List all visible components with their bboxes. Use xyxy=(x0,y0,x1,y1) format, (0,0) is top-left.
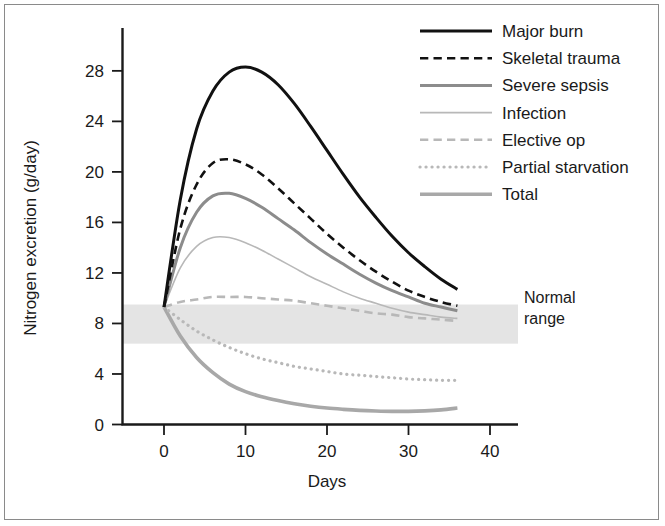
normal-range-label-line1: Normal xyxy=(524,289,576,306)
legend-item-label: Partial starvation xyxy=(502,158,629,177)
series-line-severe-sepsis xyxy=(164,193,457,311)
series-line-major-burn xyxy=(164,67,457,307)
normal-range-label-line2: range xyxy=(524,310,565,327)
x-tick-label: 40 xyxy=(481,442,500,461)
x-tick-label: 0 xyxy=(159,442,168,461)
x-tick-label: 20 xyxy=(318,442,337,461)
line-chart: 010203040 0481216202428 Major burnSkelet… xyxy=(0,0,665,526)
y-axis-label: Nitrogen excretion (g/day) xyxy=(21,140,40,336)
y-tick-label: 24 xyxy=(85,112,104,131)
legend-item-label: Total xyxy=(502,185,538,204)
legend-item-label: Skeletal trauma xyxy=(502,49,621,68)
legend-item-label: Elective op xyxy=(502,131,585,150)
x-tick-label: 10 xyxy=(236,442,255,461)
chart-legend: Major burnSkeletal traumaSevere sepsisIn… xyxy=(420,22,629,204)
x-tick-label: 30 xyxy=(399,442,418,461)
y-tick-label: 20 xyxy=(85,163,104,182)
x-axis-label: Days xyxy=(308,472,347,491)
legend-item-label: Infection xyxy=(502,104,566,123)
y-tick-label: 8 xyxy=(95,314,104,333)
legend-item-label: Severe sepsis xyxy=(502,76,609,95)
x-axis-ticks: 010203040 xyxy=(159,425,499,462)
chart-figure: 010203040 0481216202428 Major burnSkelet… xyxy=(0,0,665,526)
y-tick-label: 0 xyxy=(95,416,104,435)
y-axis-ticks: 0481216202428 xyxy=(85,62,122,435)
y-tick-label: 28 xyxy=(85,62,104,81)
y-tick-label: 16 xyxy=(85,213,104,232)
y-tick-label: 4 xyxy=(95,365,104,384)
series-curves xyxy=(164,67,457,411)
y-tick-label: 12 xyxy=(85,264,104,283)
legend-item-label: Major burn xyxy=(502,22,583,41)
series-line-skeletal-trauma xyxy=(164,159,457,307)
